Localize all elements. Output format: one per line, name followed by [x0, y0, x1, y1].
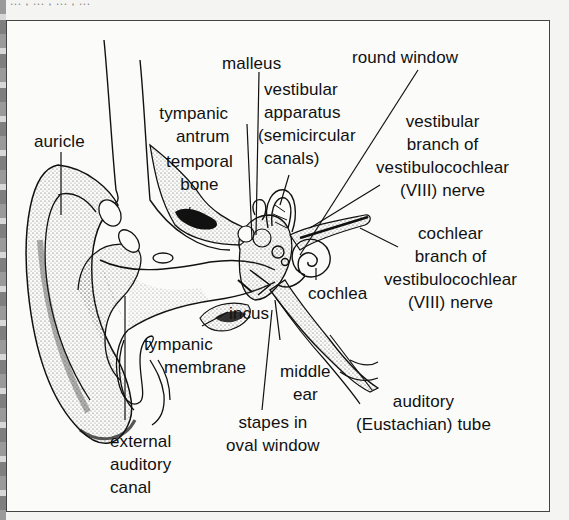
vestibulocochlear-nerve-shape — [290, 215, 370, 250]
label-vestibular-branch: vestibular branch of vestibulocochlear (… — [376, 110, 509, 202]
label-tympanic-antrum: tympanic antrum — [158, 102, 230, 148]
auricle-shape — [26, 165, 135, 443]
label-incus: incus — [229, 302, 269, 325]
label-auricle: auricle — [34, 130, 85, 153]
label-tympanic-membrane: tympanic membrane — [144, 333, 246, 379]
label-middle-ear: middle ear — [280, 360, 331, 406]
label-malleus: malleus — [222, 52, 281, 75]
label-external-auditory-canal: external auditory canal — [110, 430, 171, 499]
label-temporal-bone: temporal bone — [166, 150, 233, 196]
label-round-window: round window — [352, 46, 458, 69]
label-cochlear-branch: cochlear branch of vestibulocochlear (VI… — [384, 222, 517, 314]
label-vestibular-apparatus: vestibular apparatus (semicircular canal… — [264, 78, 356, 170]
label-auditory-tube: auditory (Eustachian) tube — [356, 390, 491, 436]
label-stapes: stapes in oval window — [226, 411, 320, 457]
label-cochlea: cochlea — [308, 282, 367, 305]
